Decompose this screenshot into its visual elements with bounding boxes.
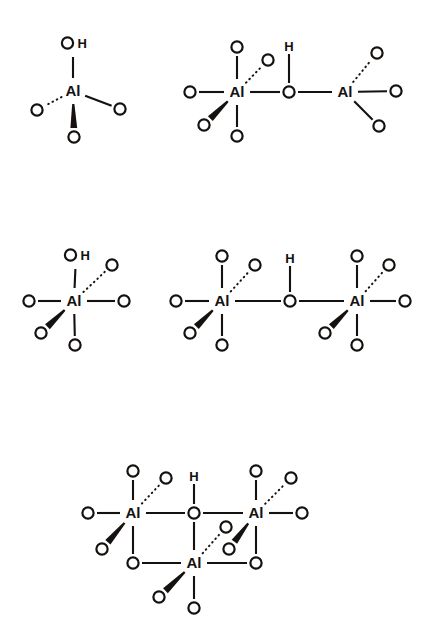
atom-aluminium-label: Al xyxy=(126,504,141,521)
atom-bridge-hydrogen-label: H xyxy=(284,39,293,54)
chemical-structures-figure: HAlHAlAlHAlHAlAlHAlAlAl xyxy=(0,0,436,626)
atom-aluminium-label: Al xyxy=(230,83,245,100)
bond-plain xyxy=(74,314,75,336)
atom-aluminium-label: Al xyxy=(215,292,230,309)
atom-aluminium-label: Al xyxy=(249,504,264,521)
atom-bridge-hydrogen-label: H xyxy=(285,251,294,266)
bond-plain xyxy=(358,91,387,92)
atom-aluminium-label: Al xyxy=(338,83,353,100)
atom-bridge-hydrogen-label: H xyxy=(189,469,198,484)
atom-aluminium-label: Al xyxy=(66,82,81,99)
atom-aluminium-label: Al xyxy=(187,554,202,571)
atom-hydrogen-label: H xyxy=(78,36,87,51)
atom-aluminium-label: Al xyxy=(67,292,82,309)
atom-hydrogen-label: H xyxy=(81,248,90,263)
bond-plain xyxy=(75,269,76,288)
atom-aluminium-label: Al xyxy=(350,292,365,309)
